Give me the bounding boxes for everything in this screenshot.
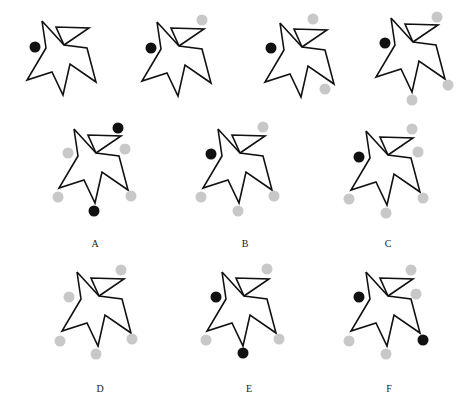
black-dot — [113, 123, 124, 134]
star-outline-shape — [351, 131, 420, 205]
gray-dot — [381, 349, 392, 360]
panel-e: E — [201, 264, 285, 395]
panel-top-4 — [376, 12, 454, 106]
figure-canvas: A B C D E F — [0, 0, 469, 409]
gray-dot — [308, 14, 319, 25]
black-dot — [266, 43, 277, 54]
panel-top-1 — [27, 21, 96, 95]
gray-dot — [413, 147, 424, 158]
gray-dot — [407, 95, 418, 106]
gray-dot — [196, 192, 207, 203]
gray-dot — [258, 122, 269, 133]
gray-dot — [126, 191, 137, 202]
star-outline-shape — [203, 129, 272, 203]
gray-dot — [381, 208, 392, 219]
gray-dot — [53, 192, 64, 203]
gray-dot — [411, 289, 422, 300]
black-dot — [354, 152, 365, 163]
black-dot — [354, 292, 365, 303]
star-outline-shape — [59, 129, 128, 203]
panel-f: F — [344, 265, 429, 395]
star-outline-shape — [142, 22, 211, 96]
panel-d: D — [55, 265, 138, 395]
gray-dot — [127, 334, 138, 345]
star-outline-shape — [62, 272, 131, 346]
gray-dot — [407, 124, 418, 135]
gray-dot — [344, 194, 355, 205]
gray-dot — [116, 265, 127, 276]
gray-dot — [64, 292, 75, 303]
gray-dot — [233, 206, 244, 217]
gray-dot — [432, 12, 443, 23]
black-dot — [206, 149, 217, 160]
gray-dot — [91, 349, 102, 360]
gray-dot — [269, 191, 280, 202]
gray-dot — [262, 264, 273, 275]
panel-label: A — [91, 238, 99, 249]
gray-dot — [320, 84, 331, 95]
gray-dot — [55, 336, 66, 347]
gray-dot — [418, 193, 429, 204]
star-outline-shape — [376, 18, 445, 92]
panel-top-3 — [265, 14, 334, 98]
panel-label: F — [386, 383, 392, 394]
black-dot — [418, 335, 429, 346]
panel-top-2 — [142, 15, 211, 97]
black-dot — [211, 292, 222, 303]
gray-dot — [63, 148, 74, 159]
black-dot — [238, 348, 249, 359]
panel-a: A — [53, 123, 137, 250]
black-dot — [89, 206, 100, 217]
star-outline-shape — [351, 272, 420, 346]
star-outline-shape — [27, 21, 96, 95]
star-outline-shape — [207, 272, 276, 346]
black-dot — [380, 38, 391, 49]
panel-b: B — [196, 122, 280, 250]
gray-dot — [197, 15, 208, 26]
panel-label: E — [246, 383, 252, 394]
gray-dot — [120, 144, 131, 155]
panel-label: B — [242, 238, 249, 249]
black-dot — [30, 42, 41, 53]
panel-c: C — [344, 124, 429, 250]
panel-label: D — [96, 383, 103, 394]
gray-dot — [443, 80, 454, 91]
panel-label: C — [385, 238, 392, 249]
gray-dot — [201, 335, 212, 346]
black-dot — [146, 43, 157, 54]
gray-dot — [274, 334, 285, 345]
gray-dot — [406, 265, 417, 276]
gray-dot — [344, 336, 355, 347]
